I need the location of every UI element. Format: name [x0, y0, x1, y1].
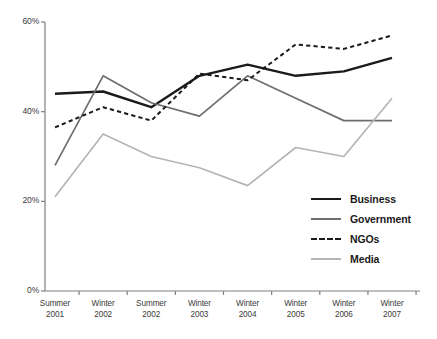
legend-swatch-icon — [311, 194, 341, 204]
legend-item-government: Government — [311, 209, 411, 229]
x-axis-tick-label: Winter2007 — [364, 299, 420, 320]
legend-swatch-icon — [311, 254, 341, 264]
series-line-business — [55, 58, 392, 107]
series-line-media — [55, 98, 392, 197]
plot-area — [0, 0, 437, 339]
legend-item-business: Business — [311, 189, 411, 209]
legend-item-media: Media — [311, 249, 411, 269]
legend-label: NGOs — [350, 233, 379, 245]
series-line-ngos — [55, 35, 392, 127]
legend-label: Media — [350, 253, 379, 265]
y-axis-tick-label: 0% — [5, 285, 39, 295]
y-axis-tick-label: 20% — [5, 195, 39, 205]
y-axis-tick-label: 60% — [5, 16, 39, 26]
legend-swatch-icon — [311, 234, 341, 244]
legend-label: Government — [350, 213, 411, 225]
y-axis-tick-label: 40% — [5, 106, 39, 116]
legend-item-ngos: NGOs — [311, 229, 411, 249]
series-line-government — [55, 76, 392, 166]
legend-swatch-icon — [311, 214, 341, 224]
line-chart: 0%20%40%60% Summer2001Winter2002Summer20… — [0, 0, 437, 339]
legend-label: Business — [350, 193, 396, 205]
chart-legend: BusinessGovernmentNGOsMedia — [311, 189, 411, 269]
